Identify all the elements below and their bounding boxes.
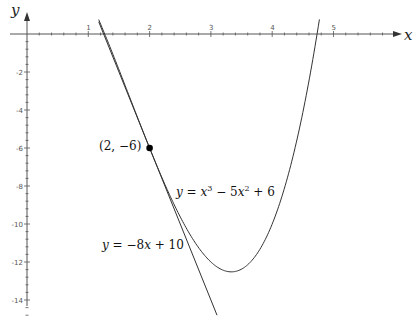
y-axis-arrow-icon [24, 12, 30, 21]
x-tick-label: 1 [86, 24, 90, 32]
x-tick-label: 2 [148, 24, 152, 32]
x-ticks: 12345 [39, 24, 382, 37]
y-tick-label: -6 [16, 145, 24, 153]
x-axis-arrow-icon [393, 31, 402, 37]
y-tick-label: -10 [12, 221, 23, 229]
y-tick-label: -2 [16, 69, 23, 77]
y-tick-label: -14 [12, 297, 24, 305]
y-tick-label: -8 [16, 183, 23, 191]
y-tick-label: -12 [12, 259, 23, 267]
point-label: (2, −6) [99, 139, 141, 153]
tangent-point-marker [146, 145, 153, 152]
cubic-equation-label: y = x3 − 5x2 + 6 [175, 184, 275, 199]
y-axis-label: y [10, 1, 20, 19]
y-tick-label: -4 [16, 107, 24, 115]
x-tick-label: 3 [209, 24, 213, 32]
tangent-line [99, 22, 217, 315]
axes: 12345 -2-4-6-8-10-12-14 x y [10, 1, 413, 315]
x-tick-label: 5 [332, 24, 336, 32]
x-tick-label: 4 [270, 24, 275, 32]
tangent-equation-label: y = −8x + 10 [101, 238, 184, 252]
plot-area: 12345 -2-4-6-8-10-12-14 x y (2, −6) y = … [0, 0, 414, 316]
x-axis-label: x [404, 26, 413, 44]
